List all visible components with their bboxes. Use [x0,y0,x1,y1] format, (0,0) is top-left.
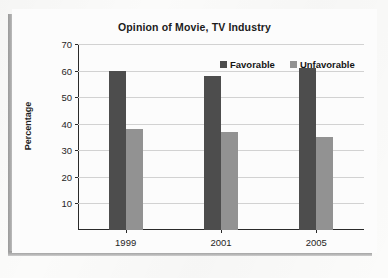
chart-canvas: Opinion of Movie, TV Industry Percentage… [0,0,388,278]
chart-legend: FavorableUnfavorable [220,59,355,70]
y-tick-label: 20 [61,171,72,182]
bar-favorable-2001 [204,76,221,230]
chart-card: Opinion of Movie, TV Industry Percentage… [12,9,377,253]
x-tick-mark [221,230,222,233]
x-tick-label-1999: 1999 [115,237,136,248]
legend-label: Unfavorable [300,59,355,70]
y-tick-label: 50 [61,92,72,103]
legend-swatch-icon [290,61,297,68]
x-tick-mark [126,230,127,233]
y-tick-label: 60 [61,65,72,76]
bar-favorable-1999 [109,71,126,230]
legend-item-favorable: Favorable [220,59,275,70]
bar-favorable-2005 [299,68,316,230]
x-tick-label-2001: 2001 [210,237,231,248]
x-tick-mark [316,230,317,233]
bar-series-container [78,44,364,230]
y-tick-label: 30 [61,145,72,156]
plot-area: 10203040506070 199920012005 [78,44,364,230]
bar-unfavorable-2001 [221,132,238,230]
y-tick-label: 40 [61,118,72,129]
legend-swatch-icon [220,61,227,68]
chart-title: Opinion of Movie, TV Industry [12,21,377,33]
y-tick-label: 10 [61,198,72,209]
bar-unfavorable-1999 [126,129,143,230]
legend-item-unfavorable: Unfavorable [290,59,355,70]
legend-label: Favorable [230,59,275,70]
x-tick-label-2005: 2005 [306,237,327,248]
bar-unfavorable-2005 [316,137,333,230]
y-axis-title: Percentage [23,86,33,166]
y-tick-label: 70 [61,39,72,50]
